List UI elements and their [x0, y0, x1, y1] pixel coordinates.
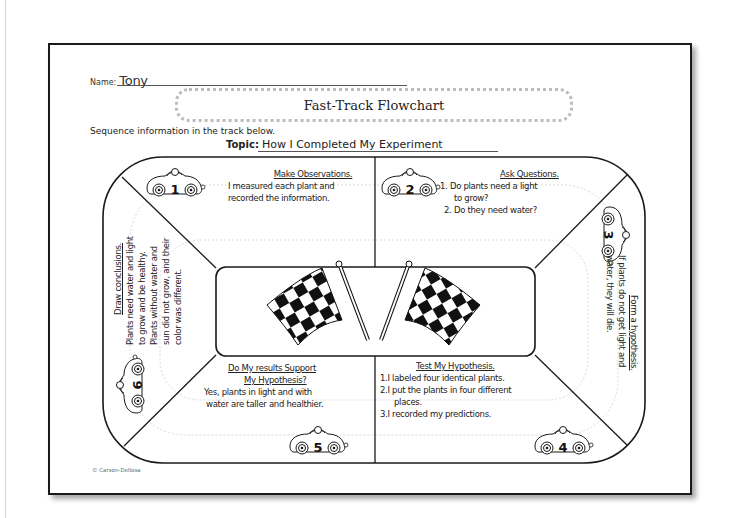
step-6-line: to grow and be healthy. [136, 185, 148, 345]
step-6-line: sun did not grow, and their [160, 185, 172, 345]
step-3-heading: Form a hypothesis. [628, 295, 640, 415]
step-5-text: Do My results Support My Hypothesis? Yes… [204, 362, 364, 410]
svg-text:3: 3 [601, 230, 616, 239]
copyright-text: © Carson-Dellosa [92, 467, 141, 473]
step-1-line: I measured each plant and [228, 180, 368, 192]
step-2-line: 2. Do they need water? [440, 204, 580, 216]
step-4-line: 1.I labeled four identical plants. [380, 372, 540, 384]
step-5-heading-2: My Hypothesis? [244, 374, 364, 386]
race-car-icon-2: 2 [382, 169, 440, 198]
svg-text:4: 4 [558, 440, 567, 455]
svg-text:2: 2 [405, 182, 414, 197]
svg-text:5: 5 [313, 440, 322, 455]
step-6-line: color was different. [172, 185, 184, 345]
step-1-heading: Make Observations. [258, 168, 368, 180]
step-1-text: Make Observations. I measured each plant… [228, 168, 368, 204]
step-6-text: Draw conclusions. Plants need water and … [112, 185, 184, 345]
step-5-line: water are taller and healthier. [204, 398, 364, 410]
step-5-line: Yes, plants in light and with [204, 386, 364, 398]
step-4-line: 3.I recorded my predictions. [380, 408, 540, 420]
step-4-heading: Test My Hypothesis. [416, 360, 540, 372]
svg-text:6: 6 [130, 380, 145, 389]
step-2-heading: Ask Questions. [500, 168, 580, 180]
race-car-icon-5: 5 [290, 427, 348, 456]
step-2-line: 1. Do plants need a light [440, 180, 580, 192]
step-6-heading: Draw conclusions. [112, 185, 124, 315]
step-4-line: 2.I put the plants in four different [380, 384, 540, 396]
step-2-text: Ask Questions. 1. Do plants need a light… [440, 168, 580, 216]
step-5-heading: Do My results Support [228, 362, 364, 374]
step-3-line: water, they will die. [604, 255, 616, 415]
step-6-line: Plants need water and light [124, 185, 136, 345]
race-car-icon-6: 6 [117, 355, 146, 413]
step-4-line: places. [380, 396, 540, 408]
step-1-line: recorded the information. [228, 192, 368, 204]
step-3-line: If plants do not get light and [616, 255, 628, 415]
step-2-line: to grow? [440, 192, 580, 204]
step-3-text: Form a hypothesis. If plants do not get … [604, 255, 640, 415]
step-4-text: Test My Hypothesis. 1.I labeled four ide… [380, 360, 540, 420]
step-6-line: Plants without water and [148, 185, 160, 345]
